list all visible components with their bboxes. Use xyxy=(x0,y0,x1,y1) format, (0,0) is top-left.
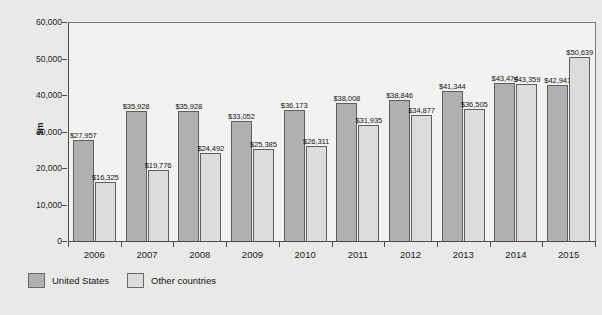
y-tick-label: 30,000 xyxy=(36,126,62,138)
bar-value-label: $36,173 xyxy=(281,101,308,110)
bar-united-states[interactable]: $38,846 xyxy=(389,100,410,242)
bar-united-states[interactable]: $42,941 xyxy=(547,85,568,242)
bar-group: $38,846$34,877 xyxy=(389,23,432,242)
bar-value-label: $19,776 xyxy=(145,161,172,170)
bar-united-states[interactable]: $38,008 xyxy=(336,103,357,242)
bar-value-label: $33,052 xyxy=(228,112,255,121)
x-tick-mark xyxy=(121,242,122,247)
bar-other-countries[interactable]: $36,505 xyxy=(464,109,485,242)
y-tick-mark xyxy=(62,168,67,169)
x-tick-label-2014: 2014 xyxy=(486,249,546,260)
bar-value-label: $25,385 xyxy=(250,140,277,149)
y-tick-label: 60,000 xyxy=(36,16,62,28)
bar-group: $35,928$24,492 xyxy=(178,23,221,242)
legend-label: United States xyxy=(52,275,109,286)
bar-value-label: $34,877 xyxy=(408,106,435,115)
y-axis-tick-labels: 60,00050,00040,00030,00020,00010,0000 xyxy=(0,0,62,315)
bar-other-countries[interactable]: $25,385 xyxy=(253,149,274,242)
bar-chart-figure: $m 60,00050,00040,00030,00020,00010,0000… xyxy=(0,0,602,315)
x-tick-label-2009: 2009 xyxy=(222,249,282,260)
bar-other-countries[interactable]: $34,877 xyxy=(411,115,432,242)
y-tick-mark xyxy=(62,132,67,133)
bar-value-label: $38,008 xyxy=(333,94,360,103)
x-tick-mark xyxy=(173,242,174,247)
bar-united-states[interactable]: $43,474 xyxy=(494,83,515,242)
bar-value-label: $26,311 xyxy=(303,137,329,146)
bar-united-states[interactable]: $27,957 xyxy=(73,140,94,242)
x-tick-mark xyxy=(595,242,596,247)
bar-other-countries[interactable]: $24,492 xyxy=(200,153,221,242)
bar-united-states[interactable]: $33,052 xyxy=(231,121,252,242)
x-tick-label-2011: 2011 xyxy=(328,249,388,260)
y-tick-mark xyxy=(62,22,67,23)
bar-other-countries[interactable]: $16,325 xyxy=(95,182,116,242)
bar-group: $43,474$43,359 xyxy=(494,23,537,242)
x-tick-label-2008: 2008 xyxy=(170,249,230,260)
legend-item-united-states[interactable]: United States xyxy=(28,273,109,288)
chart-legend: United StatesOther countries xyxy=(28,273,225,288)
y-tick-label: 50,000 xyxy=(36,53,62,65)
legend-swatch-icon xyxy=(28,273,45,288)
x-tick-mark xyxy=(384,242,385,247)
legend-item-other-countries[interactable]: Other countries xyxy=(127,273,216,288)
y-tick-mark xyxy=(62,95,67,96)
bar-group: $33,052$25,385 xyxy=(231,23,274,242)
legend-label: Other countries xyxy=(151,275,216,286)
x-tick-mark xyxy=(542,242,543,247)
bar-united-states[interactable]: $35,928 xyxy=(126,111,147,242)
bar-value-label: $27,957 xyxy=(70,131,97,140)
x-tick-mark xyxy=(490,242,491,247)
x-tick-label-2015: 2015 xyxy=(539,249,599,260)
bar-group: $36,173$26,311 xyxy=(284,23,327,242)
bar-other-countries[interactable]: $19,776 xyxy=(148,170,169,242)
bar-value-label: $24,492 xyxy=(197,144,224,153)
y-tick-mark xyxy=(62,241,67,242)
y-tick-mark xyxy=(62,59,67,60)
bar-group: $27,957$16,325 xyxy=(73,23,116,242)
bar-united-states[interactable]: $41,344 xyxy=(442,91,463,242)
y-tick-label: 10,000 xyxy=(36,199,62,211)
bar-value-label: $42,941 xyxy=(544,76,571,85)
bar-value-label: $43,359 xyxy=(514,75,541,84)
y-tick-mark xyxy=(62,205,67,206)
bar-united-states[interactable]: $35,928 xyxy=(178,111,199,242)
x-tick-mark xyxy=(332,242,333,247)
y-tick-label: 40,000 xyxy=(36,89,62,101)
bar-value-label: $38,846 xyxy=(386,91,413,100)
bar-group: $35,928$19,776 xyxy=(126,23,169,242)
x-tick-mark xyxy=(226,242,227,247)
bar-other-countries[interactable]: $31,935 xyxy=(358,125,379,242)
bar-value-label: $31,935 xyxy=(355,116,382,125)
x-tick-label-2012: 2012 xyxy=(381,249,441,260)
bar-value-label: $41,344 xyxy=(439,82,466,91)
bar-value-label: $35,928 xyxy=(175,102,202,111)
bar-group: $38,008$31,935 xyxy=(336,23,379,242)
legend-swatch-icon xyxy=(127,273,144,288)
x-tick-mark xyxy=(437,242,438,247)
x-tick-mark xyxy=(68,242,69,247)
bar-value-label: $35,928 xyxy=(123,102,150,111)
x-tick-label-2010: 2010 xyxy=(275,249,335,260)
y-tick-label: 20,000 xyxy=(36,162,62,174)
x-tick-label-2013: 2013 xyxy=(433,249,493,260)
bar-value-label: $16,325 xyxy=(92,173,119,182)
bar-group: $41,344$36,505 xyxy=(442,23,485,242)
x-tick-mark xyxy=(279,242,280,247)
bar-other-countries[interactable]: $26,311 xyxy=(306,146,327,242)
bar-group: $42,941$50,639 xyxy=(547,23,590,242)
bar-other-countries[interactable]: $50,639 xyxy=(569,57,590,242)
bar-other-countries[interactable]: $43,359 xyxy=(516,84,537,242)
y-axis-line xyxy=(68,22,69,242)
plot-area: $27,957$16,325$35,928$19,776$35,928$24,4… xyxy=(68,22,596,242)
bar-value-label: $36,505 xyxy=(461,100,488,109)
bar-value-label: $50,639 xyxy=(566,48,593,57)
x-tick-label-2006: 2006 xyxy=(64,249,124,260)
bar-united-states[interactable]: $36,173 xyxy=(284,110,305,242)
x-tick-label-2007: 2007 xyxy=(117,249,177,260)
